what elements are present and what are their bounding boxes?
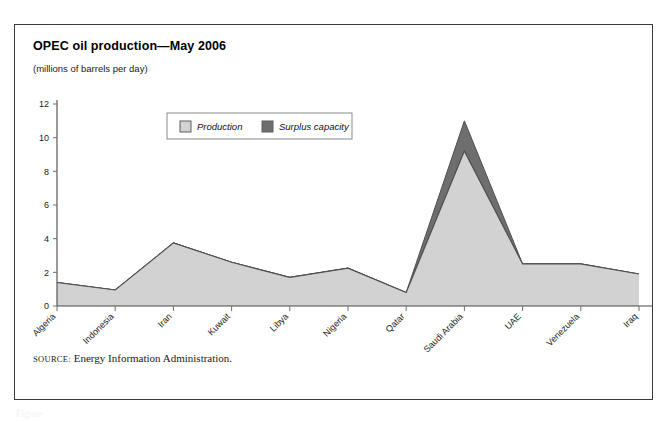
x-tick-label-iran: Iran — [156, 311, 174, 329]
x-tick-label-libya: Libya — [268, 311, 290, 333]
x-tick-label-venezuela: Venezuela — [544, 311, 581, 348]
legend-swatch-surplus-capacity — [262, 121, 273, 132]
legend-label-surplus-capacity: Surplus capacity — [279, 121, 350, 132]
legend-swatch-production — [180, 121, 191, 132]
x-tick-label-algeria: Algeria — [31, 311, 58, 338]
figure-caption-partial: Figure — [16, 408, 42, 419]
x-tick-label-saudi-arabia: Saudi Arabia — [422, 311, 465, 354]
y-tick-label-4: 4 — [44, 234, 49, 244]
source-label: SOURCE: — [33, 354, 71, 364]
series-area-production — [57, 151, 639, 306]
y-tick-label-0: 0 — [44, 301, 49, 311]
y-tick-label-8: 8 — [44, 167, 49, 177]
y-tick-label-10: 10 — [39, 133, 49, 143]
y-tick-label-6: 6 — [44, 200, 49, 210]
chart-plot: 024681012AlgeriaIndonesiaIranKuwaitLibya… — [15, 25, 654, 401]
x-tick-label-qatar: Qatar — [384, 311, 407, 334]
y-tick-label-2: 2 — [44, 268, 49, 278]
figure-frame: OPEC oil production—May 2006 (millions o… — [14, 24, 653, 400]
x-tick-label-indonesia: Indonesia — [81, 311, 116, 346]
x-tick-label-kuwait: Kuwait — [206, 311, 233, 338]
source-text: Energy Information Administration. — [74, 352, 232, 364]
y-tick-label-12: 12 — [39, 99, 49, 109]
source-note: SOURCE: Energy Information Administratio… — [33, 352, 232, 364]
x-tick-label-nigeria: Nigeria — [321, 311, 348, 338]
x-tick-label-iraq: Iraq — [621, 311, 639, 329]
legend-label-production: Production — [197, 121, 242, 132]
x-tick-label-uae: UAE — [503, 311, 523, 331]
